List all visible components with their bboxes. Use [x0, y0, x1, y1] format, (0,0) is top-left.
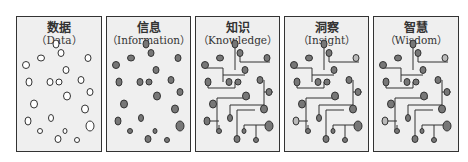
data-dot: [176, 121, 184, 131]
data-dot: [177, 89, 183, 96]
data-dot: [383, 78, 389, 86]
data-dot: [63, 129, 67, 134]
data-dot: [395, 129, 400, 134]
data-dot: [202, 62, 209, 69]
data-dot: [38, 55, 45, 61]
data-dot: [323, 136, 329, 143]
data-dot: [148, 50, 154, 57]
data-dot: [172, 105, 179, 113]
data-dot: [234, 136, 240, 143]
data-dot: [354, 121, 362, 131]
data-dot: [235, 79, 241, 85]
data-dot: [226, 79, 232, 86]
data-dot: [175, 55, 181, 62]
data-dot: [432, 138, 437, 143]
data-dot: [410, 40, 416, 48]
data-dot: [294, 78, 300, 86]
data-dot: [306, 129, 311, 134]
data-dot: [395, 55, 402, 61]
data-dot: [145, 136, 151, 143]
data-dot: [242, 67, 248, 74]
data-dot: [404, 79, 410, 86]
data-dot: [47, 79, 53, 86]
data-dot: [382, 117, 388, 125]
data-dot: [204, 117, 210, 125]
data-dot: [23, 62, 30, 69]
data-dot: [210, 100, 217, 108]
data-dot: [306, 55, 313, 61]
data-dot: [343, 138, 348, 143]
data-dot: [243, 92, 250, 100]
data-dot: [232, 40, 238, 48]
data-dot: [420, 67, 426, 74]
data-dot: [49, 115, 54, 122]
data-dot: [58, 50, 64, 57]
data-dot: [128, 55, 135, 61]
data-dot: [350, 105, 357, 113]
data-dot: [291, 62, 298, 69]
data-dot: [53, 40, 59, 48]
data-dot: [237, 50, 243, 57]
data-dot: [87, 89, 93, 96]
data-dot: [299, 100, 306, 108]
data-dot: [261, 105, 268, 113]
data-dot: [78, 77, 84, 84]
data-dot: [444, 89, 450, 96]
data-dot: [331, 67, 337, 74]
data-dot: [332, 92, 339, 100]
data-dot: [324, 79, 330, 85]
data-dot: [38, 129, 43, 134]
data-dot: [153, 67, 159, 74]
data-dot: [355, 89, 361, 96]
data-dot: [153, 129, 157, 134]
data-dot: [254, 138, 259, 143]
data-dot: [435, 77, 441, 84]
data-dot: [331, 129, 335, 134]
data-dot: [413, 79, 419, 85]
data-dot: [86, 121, 94, 131]
data-dot: [143, 40, 149, 48]
data-dot: [412, 136, 418, 143]
data-dot: [64, 92, 71, 100]
data-dot: [228, 115, 233, 122]
data-dot: [26, 78, 32, 86]
data-dot: [317, 115, 322, 122]
data-dot: [388, 100, 395, 108]
data-dot: [25, 117, 31, 125]
data-dot: [415, 50, 421, 57]
data-dot: [380, 62, 387, 69]
data-dot: [420, 129, 424, 134]
data-dot: [82, 105, 89, 113]
data-dot: [165, 138, 170, 143]
data-dot: [321, 40, 327, 48]
data-dot: [266, 89, 272, 96]
data-dot: [439, 105, 446, 113]
data-dot: [205, 78, 211, 86]
data-dot: [293, 117, 299, 125]
data-dot: [55, 136, 61, 143]
data-dot: [113, 62, 120, 69]
data-dot: [442, 55, 448, 62]
data-dot: [217, 55, 224, 61]
data-dot: [353, 55, 359, 62]
data-dot: [326, 50, 332, 57]
data-dot: [154, 92, 161, 100]
data-dot: [242, 129, 246, 134]
data-dot: [137, 79, 143, 86]
data-dot: [168, 77, 174, 84]
data-dot: [257, 77, 263, 84]
data-dot: [116, 78, 122, 86]
data-dot: [406, 115, 411, 122]
data-dot: [217, 129, 222, 134]
data-dot: [75, 138, 80, 143]
data-dot: [146, 79, 152, 85]
data-dot: [115, 117, 121, 125]
data-dot: [139, 115, 144, 122]
data-dot: [315, 79, 321, 86]
data-dot: [121, 100, 128, 108]
data-dot: [85, 55, 91, 62]
data-dot: [63, 67, 69, 74]
data-dot: [443, 121, 451, 131]
data-dot: [421, 92, 428, 100]
data-dot: [265, 121, 273, 131]
